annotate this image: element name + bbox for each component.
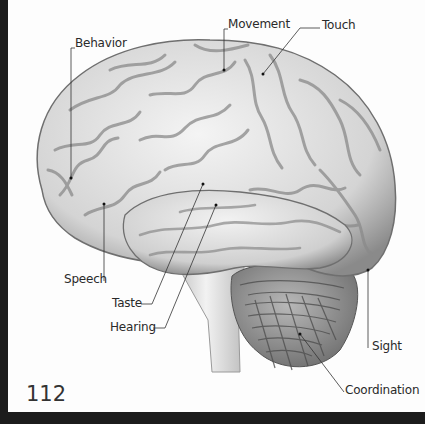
- label-movement: Movement: [228, 17, 290, 31]
- label-sight: Sight: [372, 339, 402, 353]
- label-touch: Touch: [322, 18, 355, 32]
- label-speech: Speech: [64, 272, 107, 286]
- label-behavior: Behavior: [75, 36, 127, 50]
- brain-illustration: [8, 0, 425, 412]
- label-taste: Taste: [112, 296, 142, 310]
- page-number: 112: [26, 382, 66, 406]
- label-coordination: Coordination: [345, 383, 419, 397]
- book-page: Behavior Movement Touch Speech Taste Hea…: [8, 0, 425, 412]
- label-hearing: Hearing: [110, 320, 156, 334]
